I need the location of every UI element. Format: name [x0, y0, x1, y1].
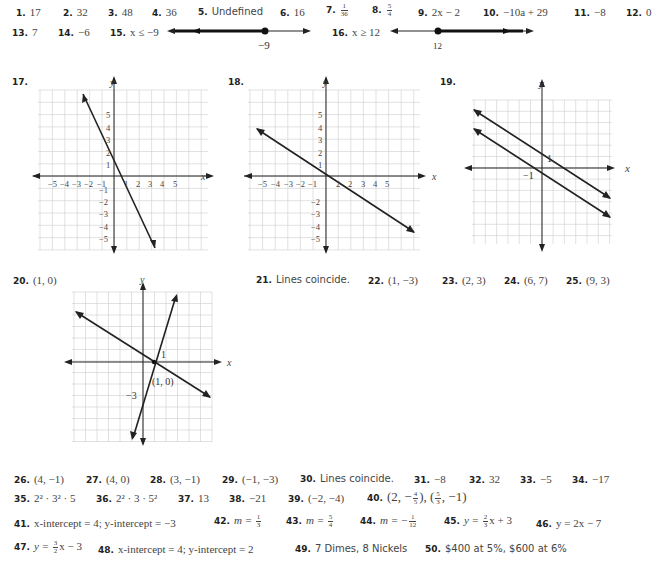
- fraction: 53: [435, 491, 441, 506]
- number-line-15-label: −9: [258, 39, 270, 51]
- answer-6: 6.16: [280, 6, 305, 18]
- svg-text:x: x: [226, 357, 232, 368]
- number-line-16-label: 12: [433, 41, 442, 51]
- answer-34: 34.−17: [572, 473, 609, 485]
- answer-25: 25.(9, 3): [566, 274, 610, 286]
- answer-43: 43.m = 54: [286, 514, 334, 529]
- svg-text:−5: −5: [48, 179, 57, 189]
- answer-8: 8.54: [372, 3, 393, 18]
- svg-text:4: 4: [106, 123, 111, 133]
- svg-text:4: 4: [373, 179, 378, 189]
- answer-37: 37.13: [178, 492, 209, 504]
- fraction: 112: [409, 514, 416, 529]
- svg-text:5: 5: [106, 110, 110, 120]
- svg-text:1: 1: [547, 153, 552, 164]
- answer-29: 29.(−1, −3): [222, 473, 278, 485]
- svg-text:−3: −3: [311, 209, 320, 219]
- answer-41: 41.x-intercept = 4; y-intercept = −3: [14, 517, 176, 529]
- svg-text:2: 2: [318, 148, 322, 158]
- svg-text:−5: −5: [99, 234, 108, 244]
- answer-33: 33.−5: [520, 473, 552, 485]
- svg-text:2: 2: [348, 179, 352, 189]
- answer-12: 12.0: [626, 6, 651, 18]
- svg-text:−2: −2: [311, 197, 320, 207]
- graph-20: 1 (1, 0) −3 y x: [60, 272, 250, 447]
- fraction: 23: [483, 514, 489, 529]
- svg-text:−3: −3: [126, 390, 137, 401]
- answer-47: 47.y = 32x − 3: [14, 540, 82, 555]
- answer-28: 28.(3, −1): [150, 473, 200, 485]
- answer-7: 7.136: [326, 3, 349, 18]
- answer-50: 50.$400 at 5%, $600 at 6%: [425, 543, 567, 554]
- answer-2: 2.32: [63, 6, 88, 18]
- svg-text:y: y: [139, 274, 145, 285]
- fraction: 54: [387, 3, 393, 18]
- svg-text:−1: −1: [308, 179, 317, 189]
- svg-text:1: 1: [106, 160, 110, 170]
- svg-text:2: 2: [106, 148, 110, 158]
- svg-text:5: 5: [385, 179, 389, 189]
- answer-9: 9.2x − 2: [418, 6, 460, 18]
- svg-text:−2: −2: [84, 179, 93, 189]
- svg-text:1: 1: [124, 179, 128, 189]
- intersection-point: [152, 360, 156, 364]
- svg-text:−3: −3: [99, 209, 108, 219]
- answer-26: 26.(4, −1): [14, 473, 64, 485]
- svg-text:5: 5: [173, 179, 177, 189]
- svg-text:−2: −2: [99, 197, 108, 207]
- svg-text:2: 2: [136, 179, 140, 189]
- svg-text:−5: −5: [258, 179, 267, 189]
- svg-text:3: 3: [361, 179, 365, 189]
- answer-21: 21.Lines coincide.: [256, 274, 350, 285]
- svg-text:3: 3: [318, 135, 322, 145]
- answer-11: 11.−8: [574, 6, 606, 18]
- fraction: 54: [328, 514, 334, 529]
- svg-text:−3: −3: [72, 179, 81, 189]
- answer-5: 5.Undefined: [198, 6, 263, 17]
- fraction: 13: [256, 514, 262, 529]
- answer-23: 23.(2, 3): [442, 274, 486, 286]
- answer-20: 20.(1, 0): [13, 274, 57, 286]
- answer-17: 17.: [12, 76, 32, 87]
- answer-31: 31.−8: [414, 473, 446, 485]
- svg-text:3: 3: [148, 179, 152, 189]
- answer-13: 13.7: [12, 26, 37, 38]
- answer-39: 39.(−2, −4): [288, 492, 344, 504]
- graph-18: −5−4−3−2−1 22345 54321 −2−3−4−5 y x: [244, 74, 440, 254]
- svg-text:−4: −4: [271, 179, 281, 189]
- svg-text:x: x: [624, 162, 630, 174]
- answer-46: 46.y = 2x − 7: [536, 517, 601, 529]
- svg-text:x: x: [200, 171, 206, 182]
- svg-text:−4: −4: [99, 222, 109, 232]
- svg-text:−3: −3: [284, 179, 293, 189]
- svg-text:3: 3: [106, 135, 110, 145]
- answer-32: 32.32: [469, 473, 500, 485]
- number-line-16: 12: [388, 24, 538, 56]
- answer-49: 49.7 Dimes, 8 Nickels: [295, 543, 407, 554]
- answer-40: 40.(2, −45), (53, −1): [367, 489, 466, 506]
- fraction: 45: [413, 491, 419, 506]
- svg-text:4: 4: [318, 123, 323, 133]
- answer-15: 15.x ≤ −9: [110, 26, 159, 38]
- svg-text:5: 5: [318, 110, 322, 120]
- answer-14: 14.−6: [58, 26, 90, 38]
- svg-text:−4: −4: [60, 179, 70, 189]
- answer-48: 48.x-intercept = 4; y-intercept = 2: [98, 543, 253, 555]
- svg-text:−5: −5: [311, 234, 320, 244]
- svg-text:y: y: [538, 77, 544, 89]
- svg-text:y: y: [322, 77, 328, 88]
- answer-3: 3.48: [108, 6, 133, 18]
- svg-text:x: x: [431, 171, 437, 182]
- answer-38: 38.−21: [229, 492, 266, 504]
- answer-27: 27.(4, 0): [86, 473, 130, 485]
- answer-22: 22.(1, −3): [368, 274, 418, 286]
- answer-42: 42.m = 13: [214, 514, 262, 529]
- svg-text:−1: −1: [99, 185, 108, 195]
- number-line-15: −9: [165, 24, 315, 56]
- svg-text:−1: −1: [523, 170, 534, 181]
- answer-10: 10.−10a + 29: [483, 6, 548, 18]
- graph-19: 1 −1 y x: [462, 74, 652, 254]
- answer-1: 1.17: [16, 6, 41, 18]
- svg-text:−2: −2: [296, 179, 305, 189]
- svg-text:(1, 0): (1, 0): [152, 376, 174, 388]
